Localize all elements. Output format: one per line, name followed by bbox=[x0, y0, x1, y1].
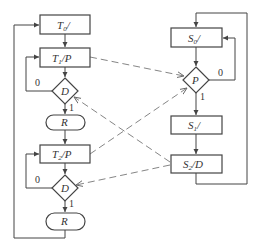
flowchart-diagram: T0/ T1/P D 0 1 R T2/P D 0 1 R S0/ P 0 1 … bbox=[0, 0, 261, 247]
d1-label: D bbox=[60, 85, 69, 97]
t2-label: T2/P bbox=[52, 148, 72, 162]
p-yes-label: 1 bbox=[200, 91, 205, 102]
flowchart-canvas: T0/ T1/P D 0 1 R T2/P D 0 1 R S0/ P 0 1 … bbox=[0, 0, 261, 247]
r2-label: R bbox=[60, 215, 68, 227]
dashed-t1-to-p bbox=[90, 57, 184, 76]
d2-yes-label: 1 bbox=[69, 198, 74, 209]
r1-label: R bbox=[60, 116, 68, 128]
s2-label: S2/D bbox=[183, 158, 203, 172]
p-no-label: 0 bbox=[218, 67, 223, 78]
d2-no-label: 0 bbox=[35, 174, 40, 185]
d1-no-label: 0 bbox=[35, 77, 40, 88]
d2-label: D bbox=[60, 182, 69, 194]
dashed-s2-to-d2 bbox=[76, 165, 170, 185]
t1-label: T1/P bbox=[52, 52, 72, 66]
p-label: P bbox=[191, 74, 199, 86]
d1-yes-label: 1 bbox=[69, 102, 74, 113]
